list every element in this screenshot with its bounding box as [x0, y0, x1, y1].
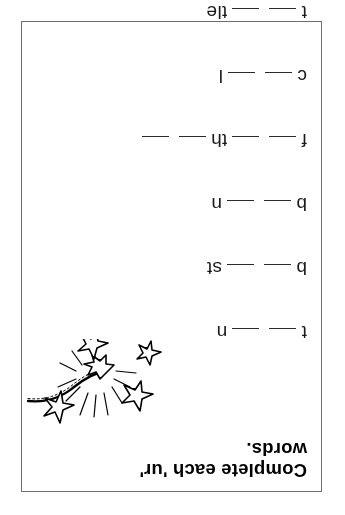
exercise-5-suffix: l: [218, 68, 223, 87]
exercise-3-blank-1[interactable]: [264, 201, 291, 202]
worksheet-border-frame: Complete each 'ur' words.: [21, 21, 322, 492]
exercise-1-prefix: t: [301, 324, 307, 343]
exercise-row-5[interactable]: c l: [22, 45, 321, 109]
exercise-list: t n b st b n: [22, 0, 321, 365]
exercise-2-blank-2[interactable]: [227, 265, 254, 266]
exercise-4-blank-1[interactable]: [269, 137, 296, 138]
exercise-1-blank-2[interactable]: [232, 329, 259, 330]
exercise-1-blank-1[interactable]: [269, 329, 296, 330]
exercise-row-3[interactable]: b n: [22, 173, 321, 237]
exercise-3-blank-2[interactable]: [227, 201, 254, 202]
exercise-4-blank-2[interactable]: [232, 137, 259, 138]
title-line-1: Complete each 'ur': [57, 460, 307, 481]
worksheet-page: Complete each 'ur' words.: [0, 0, 345, 515]
worksheet-title: Complete each 'ur' words.: [57, 439, 307, 481]
exercise-6-prefix: t: [301, 4, 307, 23]
exercise-5-blank-1[interactable]: [265, 73, 292, 74]
exercise-4-prefix: f: [301, 132, 307, 151]
exercise-4-blank-4[interactable]: [142, 137, 169, 138]
exercise-6-blank-1[interactable]: [269, 9, 296, 10]
exercise-3-suffix: n: [211, 196, 222, 215]
exercise-row-4[interactable]: f th: [22, 109, 321, 173]
exercise-2-suffix: st: [206, 260, 222, 279]
exercise-5-blank-2[interactable]: [228, 73, 255, 74]
exercise-3-prefix: b: [296, 196, 307, 215]
exercise-row-1[interactable]: t n: [22, 301, 321, 365]
exercise-4-blank-3[interactable]: [179, 137, 206, 138]
exercise-1-suffix: n: [216, 324, 227, 343]
exercise-row-6[interactable]: t tle: [22, 0, 321, 45]
exercise-row-2[interactable]: b st: [22, 237, 321, 301]
exercise-5-prefix: c: [297, 68, 307, 87]
exercise-6-suffix: tle: [206, 4, 227, 23]
exercise-2-prefix: b: [296, 260, 307, 279]
exercise-2-blank-1[interactable]: [264, 265, 291, 266]
exercise-6-blank-2[interactable]: [232, 9, 259, 10]
exercise-4-infix: th: [211, 132, 228, 151]
